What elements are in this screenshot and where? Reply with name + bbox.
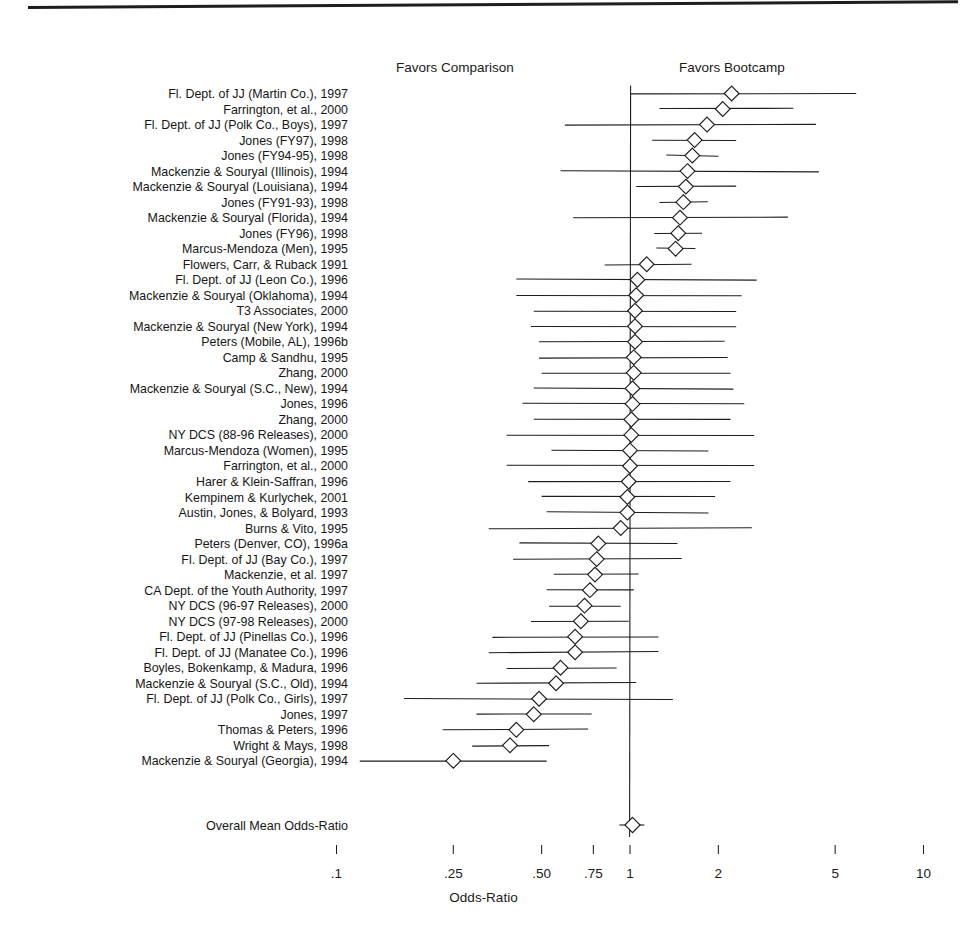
reference-line-or-1 xyxy=(630,86,631,838)
forest-row xyxy=(554,567,639,582)
forest-row xyxy=(522,397,744,412)
effect-size-diamond xyxy=(509,722,524,737)
effect-size-diamond xyxy=(625,381,640,396)
effect-size-diamond xyxy=(446,753,461,768)
study-label: Farrington, et al., 2000 xyxy=(0,460,348,472)
study-label: Jones, 1997 xyxy=(0,709,348,721)
overall-effect-size-diamond xyxy=(625,817,640,832)
study-label: Peters (Mobile, AL), 1996b xyxy=(0,336,348,348)
effect-size-diamond xyxy=(623,443,638,458)
study-label: Camp & Sandhu, 1995 xyxy=(0,352,348,364)
effect-size-diamond xyxy=(624,428,639,443)
study-label: Jones (FY96), 1998 xyxy=(0,228,348,240)
effect-size-diamond xyxy=(628,319,643,334)
effect-size-diamond xyxy=(623,459,638,474)
effect-size-diamond xyxy=(668,241,683,256)
confidence-interval-line xyxy=(565,124,816,125)
study-label: Boyles, Bokenkamp, & Madura, 1996 xyxy=(0,662,348,674)
forest-row xyxy=(516,288,741,303)
forest-row xyxy=(666,148,718,163)
study-label: Fl. Dept. of JJ (Martin Co.), 1997 xyxy=(0,88,348,100)
study-label: Jones (FY97), 1998 xyxy=(0,135,348,147)
x-axis-tick-label: .1 xyxy=(331,866,342,881)
study-label: Fl. Dept. of JJ (Leon Co.), 1996 xyxy=(0,274,348,286)
study-label: Wright & Mays, 1998 xyxy=(0,740,348,752)
forest-row xyxy=(605,257,692,272)
study-label: Harer & Klein-Saffran, 1996 xyxy=(0,476,348,488)
study-label: Zhang, 2000 xyxy=(0,414,348,426)
effect-size-diamond xyxy=(626,350,641,365)
favors-bootcamp-header: Favors Bootcamp xyxy=(679,60,785,75)
forest-row xyxy=(636,179,736,194)
confidence-interval-line xyxy=(666,155,718,156)
effect-size-diamond xyxy=(628,334,643,349)
effect-size-diamond xyxy=(582,583,597,598)
study-label: Kempinem & Kurlychek, 2001 xyxy=(0,492,348,504)
effect-size-diamond xyxy=(687,133,702,148)
effect-size-diamond xyxy=(503,738,518,753)
confidence-interval-line xyxy=(489,651,659,652)
forest-row xyxy=(516,272,756,287)
forest-row xyxy=(539,350,727,365)
effect-size-diamond xyxy=(630,272,645,287)
forest-row xyxy=(404,691,673,706)
forest-row xyxy=(549,598,621,613)
forest-row xyxy=(477,676,637,691)
forest-row xyxy=(652,133,736,148)
confidence-interval-line xyxy=(516,279,756,280)
study-label: Jones, 1996 xyxy=(0,398,348,410)
study-label: Mackenzie & Souryal (Oklahoma), 1994 xyxy=(0,290,348,302)
forest-plot-figure: Favors Comparison Favors Bootcamp Fl. De… xyxy=(0,0,967,938)
effect-size-diamond xyxy=(568,629,583,644)
confidence-interval-line xyxy=(513,558,681,559)
x-axis-tick-label: 5 xyxy=(831,866,839,881)
forest-row xyxy=(561,164,819,179)
favors-comparison-header: Favors Comparison xyxy=(396,60,514,75)
forest-row xyxy=(531,319,736,334)
study-label: Fl. Dept. of JJ (Polk Co., Boys), 1997 xyxy=(0,119,348,131)
forest-row xyxy=(513,552,681,567)
x-axis-tick-label: 2 xyxy=(715,866,723,881)
x-axis-tick-label: .75 xyxy=(584,866,603,881)
study-label: Thomas & Peters, 1996 xyxy=(0,724,348,736)
forest-row xyxy=(539,334,724,349)
study-label: NY DCS (88-96 Releases), 2000 xyxy=(0,429,348,441)
x-axis-title: Odds-Ratio xyxy=(0,890,967,905)
study-label: Mackenzie & Souryal (Illinois), 1994 xyxy=(0,166,348,178)
study-label: Mackenzie & Souryal (New York), 1994 xyxy=(0,321,348,333)
forest-row xyxy=(507,660,617,675)
study-label: NY DCS (97-98 Releases), 2000 xyxy=(0,616,348,628)
confidence-interval-line xyxy=(534,388,734,389)
forest-row xyxy=(534,381,734,396)
effect-size-diamond xyxy=(624,412,639,427)
confidence-interval-line xyxy=(539,358,727,359)
effect-size-diamond xyxy=(532,691,547,706)
study-label: Mackenzie & Souryal (S.C., Old), 1994 xyxy=(0,678,348,690)
effect-size-diamond xyxy=(724,86,739,101)
effect-size-diamond xyxy=(568,645,583,660)
effect-size-diamond xyxy=(577,598,592,613)
effect-size-diamond xyxy=(700,117,715,132)
study-label: Marcus-Mendoza (Men), 1995 xyxy=(0,243,348,255)
forest-row xyxy=(534,412,731,427)
effect-size-diamond xyxy=(625,397,640,412)
confidence-interval-line xyxy=(477,683,637,684)
forest-row xyxy=(489,521,752,536)
forest-row xyxy=(656,241,695,256)
forest-row xyxy=(528,474,730,489)
study-label: Fl. Dept. of JJ (Manatee Co.), 1996 xyxy=(0,647,348,659)
study-label: Austin, Jones, & Bolyard, 1993 xyxy=(0,507,348,519)
forest-row xyxy=(659,102,793,117)
effect-size-diamond xyxy=(626,365,641,380)
effect-size-diamond xyxy=(629,288,644,303)
forest-row xyxy=(489,645,659,660)
forest-row xyxy=(565,117,816,132)
study-label: Burns & Vito, 1995 xyxy=(0,523,348,535)
study-label: Mackenzie & Souryal (Georgia), 1994 xyxy=(0,755,348,767)
effect-size-diamond xyxy=(678,179,693,194)
study-label: NY DCS (96-97 Releases), 2000 xyxy=(0,600,348,612)
confidence-interval-line xyxy=(519,543,677,544)
forest-row xyxy=(443,722,588,737)
confidence-interval-line xyxy=(573,217,788,218)
confidence-interval-line xyxy=(443,729,588,730)
